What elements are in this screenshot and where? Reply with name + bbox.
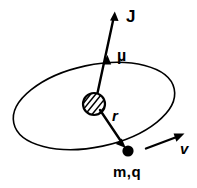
label-magnetic-moment: µ: [117, 48, 126, 64]
label-particle-mass-charge: m,q: [113, 164, 141, 179]
label-angular-momentum: J: [126, 8, 135, 25]
physics-diagram-figure: J µ r v m,q: [0, 0, 197, 188]
diagram-canvas: [0, 0, 197, 188]
orbiting-particle-dot: [122, 145, 133, 156]
label-radius: r: [112, 108, 118, 123]
velocity-vector: [146, 134, 185, 149]
angular-momentum-arrowhead: [110, 12, 119, 22]
label-velocity: v: [180, 141, 188, 156]
